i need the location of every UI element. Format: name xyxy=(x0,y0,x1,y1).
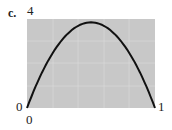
plot-area xyxy=(0,0,172,130)
